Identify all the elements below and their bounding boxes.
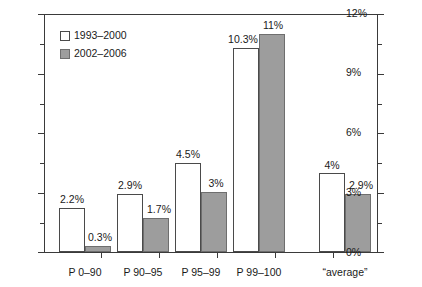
x-axis-label-p95-99: P 95–99 bbox=[182, 266, 221, 278]
bar-label-p99-100-2002-2006: 11% bbox=[263, 20, 283, 31]
y-tick-right-minor-1-5 bbox=[378, 223, 382, 224]
x-axis-label-p99-100: P 99–100 bbox=[237, 266, 282, 278]
y-tick-left-9 bbox=[38, 74, 44, 75]
x-tick-sep-5 bbox=[333, 253, 334, 258]
bar-label-p90-95-2002-2006: 1.7% bbox=[147, 204, 171, 215]
y-tick-left-minor-4-5 bbox=[40, 163, 44, 164]
y-tick-left-minor-1-5 bbox=[40, 223, 44, 224]
y-tick-right-0 bbox=[378, 252, 384, 253]
y-tick-left-6 bbox=[38, 133, 44, 134]
bar-p90-95-1993-2000 bbox=[117, 194, 143, 252]
y-tick-left-minor-7-5 bbox=[40, 104, 44, 105]
y-tick-right-6 bbox=[378, 133, 384, 134]
y-tick-left-minor-10-5 bbox=[40, 44, 44, 45]
bar-label-p99-100-1993-2000: 10.3% bbox=[228, 34, 258, 45]
bar-label-p95-99-1993-2000: 4.5% bbox=[176, 149, 200, 160]
y-tick-right-3 bbox=[378, 193, 384, 194]
bar-p99-100-1993-2000 bbox=[233, 48, 259, 252]
y-tick-left-0 bbox=[38, 252, 44, 253]
x-axis-label-p0-90: P 0–90 bbox=[68, 266, 101, 278]
bar-average-1993-2000 bbox=[319, 173, 345, 252]
bar-label-p0-90-1993-2000: 2.2% bbox=[60, 194, 84, 205]
bar-p95-99-2002-2006 bbox=[201, 192, 227, 252]
y-axis-right-label-9: 9% bbox=[346, 67, 361, 78]
y-axis-right-label-3: 3% bbox=[346, 187, 361, 198]
y-tick-right-minor-10-5 bbox=[378, 44, 382, 45]
legend-item-1993-2000: 1993–2000 bbox=[60, 28, 127, 43]
bar-p99-100-2002-2006 bbox=[259, 34, 285, 252]
y-axis-right-label-0: 0% bbox=[346, 247, 361, 258]
x-tick-sep-1 bbox=[101, 253, 102, 258]
bar-p95-99-1993-2000 bbox=[175, 163, 201, 252]
legend-label-2002-2006: 2002–2006 bbox=[74, 48, 127, 59]
bar-label-p90-95-1993-2000: 2.9% bbox=[118, 180, 142, 191]
axis-top-line bbox=[44, 14, 378, 15]
y-tick-right-12 bbox=[378, 14, 384, 15]
bar-label-average-1993-2000: 4% bbox=[324, 160, 339, 171]
x-tick-sep-4 bbox=[275, 253, 276, 258]
x-tick-sep-3 bbox=[217, 253, 218, 258]
legend-item-2002-2006: 2002–2006 bbox=[60, 46, 127, 61]
axis-bottom-line bbox=[44, 252, 378, 253]
legend-swatch-icon-1993-2000 bbox=[60, 31, 70, 41]
y-axis-right-label-6: 6% bbox=[346, 127, 361, 138]
y-tick-right-minor-7-5 bbox=[378, 104, 382, 105]
legend-label-1993-2000: 1993–2000 bbox=[74, 30, 127, 41]
y-tick-left-3 bbox=[38, 193, 44, 194]
y-tick-left-12 bbox=[38, 14, 44, 15]
grouped-bar-chart: 12% 9% 6% 3% 0% bbox=[0, 0, 422, 287]
axis-left-line bbox=[44, 14, 45, 253]
legend-swatch-icon-2002-2006 bbox=[60, 49, 70, 59]
bar-label-p95-99-2002-2006: 3% bbox=[208, 178, 223, 189]
y-tick-right-9 bbox=[378, 74, 384, 75]
bar-p90-95-2002-2006 bbox=[143, 218, 169, 252]
bar-label-p0-90-2002-2006: 0.3% bbox=[88, 232, 112, 243]
legend: 1993–2000 2002–2006 bbox=[60, 28, 127, 64]
x-tick-sep-2 bbox=[159, 253, 160, 258]
bar-p0-90-2002-2006 bbox=[85, 246, 111, 252]
bar-p0-90-1993-2000 bbox=[59, 208, 85, 252]
y-axis-right-label-12: 12% bbox=[346, 8, 367, 19]
x-axis-label-p90-95: P 90–95 bbox=[124, 266, 163, 278]
x-axis-label-average: “average” bbox=[323, 266, 368, 278]
y-tick-right-minor-4-5 bbox=[378, 163, 382, 164]
plot-area: 2.2% 0.3% 2.9% 1.7% 4.5% 3% 10.3% 11% 4%… bbox=[44, 14, 378, 253]
bar-average-2002-2006 bbox=[345, 194, 371, 252]
